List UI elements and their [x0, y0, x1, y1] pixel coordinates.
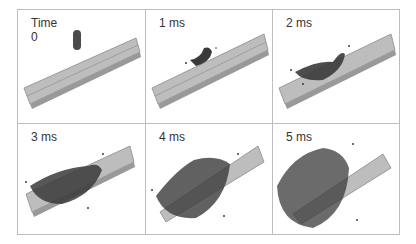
time-label: Time 0 — [31, 16, 57, 44]
panel-time-2ms: 2 ms — [273, 10, 399, 124]
panel-time-5ms: 5 ms — [273, 124, 399, 234]
time-label: 2 ms — [286, 16, 312, 30]
time-label: 5 ms — [286, 130, 312, 144]
panel-time-0: Time 0 — [18, 10, 146, 124]
time-label: 1 ms — [159, 16, 185, 30]
panel-time-1ms: 1 ms — [146, 10, 273, 124]
panel-time-3ms: 3 ms — [18, 124, 146, 234]
figure-grid: Time 0 1 ms 2 ms 3 ms — [17, 9, 400, 235]
time-label: 3 ms — [31, 130, 57, 144]
panel-time-4ms: 4 ms — [146, 124, 273, 234]
time-label: 4 ms — [159, 130, 185, 144]
